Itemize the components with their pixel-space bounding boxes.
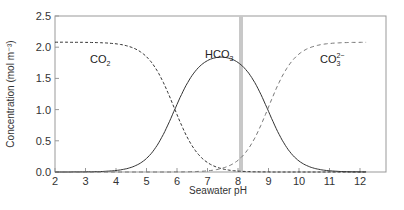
- x-tick-label: 12: [354, 175, 366, 187]
- x-tick-label: 4: [113, 175, 119, 187]
- y-tick-label: 0.0: [36, 166, 51, 178]
- y-axis-title: Concentration (mol m⁻³): [5, 40, 16, 147]
- y-tick-label: 1.0: [36, 104, 51, 116]
- hco3-curve: [55, 57, 366, 172]
- x-tick-label: 5: [143, 175, 149, 187]
- x-tick-label: 10: [293, 175, 305, 187]
- y-tick-label: 2.5: [36, 10, 51, 22]
- x-tick-label: 11: [324, 175, 335, 187]
- seawater-ph-band: [239, 16, 243, 172]
- x-tick-label: 3: [82, 175, 88, 187]
- speciation-chart: 0.00.51.01.52.02.5 23456789101112 CO2 HC…: [0, 0, 404, 210]
- plot-frame: [55, 16, 386, 172]
- y-tick-label: 2.0: [36, 41, 51, 53]
- x-tick-label: 6: [174, 175, 180, 187]
- x-axis-title: Seawater pH: [189, 185, 247, 196]
- co2-label: CO2: [90, 53, 111, 67]
- hco3-label: HCO3: [205, 48, 233, 62]
- y-axis: 0.00.51.01.52.02.5: [36, 10, 59, 178]
- x-tick-label: 2: [52, 175, 58, 187]
- y-tick-label: 1.5: [36, 72, 51, 84]
- x-tick-label: 9: [265, 175, 271, 187]
- y-tick-label: 0.5: [36, 135, 51, 147]
- co3-label: CO32−: [320, 52, 344, 67]
